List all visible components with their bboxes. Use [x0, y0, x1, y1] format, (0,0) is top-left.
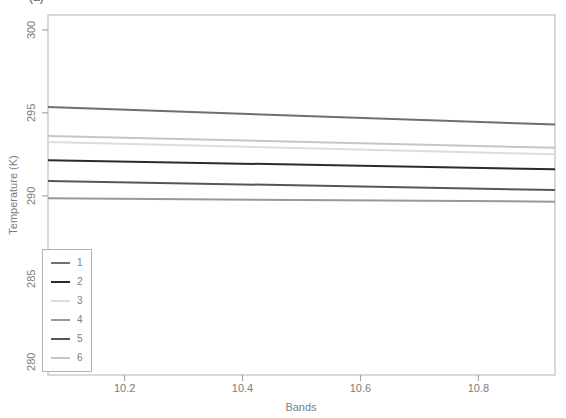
legend-box: 123456 [42, 249, 92, 372]
series-line-6 [48, 136, 555, 148]
y-tick-label: 295 [25, 104, 37, 122]
legend-label: 6 [77, 353, 83, 363]
legend-line-sample [51, 300, 70, 302]
legend-label: 5 [77, 334, 83, 344]
legend-line-sample [51, 319, 70, 321]
x-axis-title: Bands [285, 401, 316, 413]
legend-line-sample [51, 281, 70, 283]
y-tick-label: 300 [25, 21, 37, 39]
legend-item-4: 4 [51, 314, 91, 326]
legend-label: 1 [77, 258, 83, 268]
legend-item-1: 1 [51, 257, 91, 269]
series-line-3 [48, 142, 555, 154]
x-tick-label: 10.6 [350, 382, 371, 394]
legend-line-sample [51, 262, 70, 264]
y-tick-label: 285 [25, 270, 37, 288]
x-tick-label: 10.8 [468, 382, 489, 394]
series-line-1 [48, 107, 555, 124]
x-tick-label: 10.2 [114, 382, 135, 394]
legend-label: 2 [77, 277, 83, 287]
legend-item-6: 6 [51, 352, 91, 364]
y-tick-label: 290 [25, 187, 37, 205]
legend-line-sample [51, 338, 70, 340]
y-tick-label: 280 [25, 353, 37, 371]
series-line-4 [48, 198, 555, 201]
x-tick-label: 10.4 [232, 382, 253, 394]
legend-item-3: 3 [51, 295, 91, 307]
plot-frame [48, 15, 555, 375]
y-axis-title: Temperature (K) [7, 155, 19, 234]
series-line-2 [48, 160, 555, 169]
legend-label: 3 [77, 296, 83, 306]
legend-item-5: 5 [51, 333, 91, 345]
legend-line-sample [51, 357, 70, 359]
legend-label: 4 [77, 315, 83, 325]
r-plot-figure: (a) 28028529029530010.210.410.610.8 Temp… [0, 0, 566, 418]
legend-item-2: 2 [51, 276, 91, 288]
series-line-5 [48, 181, 555, 190]
